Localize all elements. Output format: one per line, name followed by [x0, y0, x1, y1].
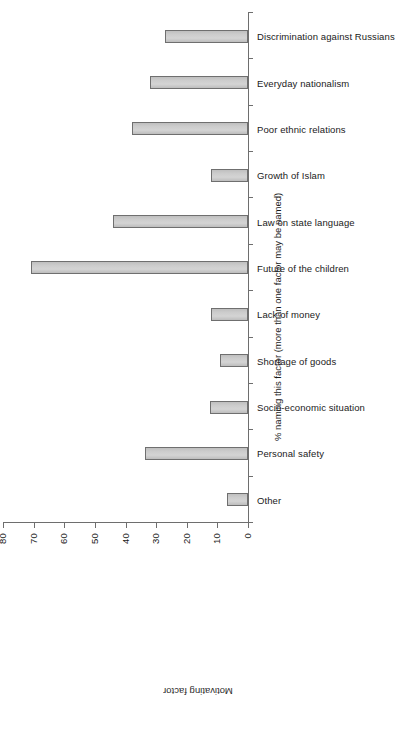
category-tick [248, 197, 253, 198]
category-label: Shortage of goods [257, 357, 336, 367]
category-tick [248, 151, 253, 152]
bar [113, 215, 248, 228]
value-tick [3, 522, 4, 528]
category-tick [248, 58, 253, 59]
bar [31, 262, 248, 275]
bar [211, 169, 248, 182]
category-label: Discrimination against Russians [257, 32, 395, 42]
value-tick [126, 522, 127, 528]
category-tick [248, 522, 253, 523]
value-tick [217, 522, 218, 528]
category-label: Future of the children [257, 264, 349, 274]
value-tick [64, 522, 65, 528]
bar [220, 354, 248, 367]
category-label: Growth of Islam [257, 171, 325, 181]
value-axis-title: % naming this factor (more than one fact… [273, 193, 283, 441]
value-tick-label: 0 [243, 533, 253, 565]
value-tick [34, 522, 35, 528]
value-tick-label: 20 [182, 533, 192, 565]
value-tick-label: 30 [151, 533, 161, 565]
bar [165, 30, 248, 43]
value-tick-label: 40 [121, 533, 131, 565]
bar [211, 308, 248, 321]
plot-area: 01020304050607080 OtherPersonal safetySo… [0, 1, 295, 561]
category-axis-title: Motivating factor [138, 686, 258, 697]
category-tick [248, 337, 253, 338]
category-label: Lack of money [257, 310, 320, 320]
value-tick [156, 522, 157, 528]
category-axis-line [248, 13, 249, 523]
value-tick-label: 80 [0, 533, 8, 565]
category-tick [248, 290, 253, 291]
value-tick [187, 522, 188, 528]
bar [145, 447, 248, 460]
bar [132, 122, 248, 135]
value-tick-label: 50 [90, 533, 100, 565]
category-label: Poor ethnic relations [257, 125, 346, 135]
value-tick-label: 10 [212, 533, 222, 565]
rotated-plot-container: 01020304050607080 OtherPersonal safetySo… [0, 1, 295, 561]
category-tick [248, 105, 253, 106]
bar [150, 76, 248, 89]
category-tick [248, 429, 253, 430]
bar [227, 493, 248, 506]
value-tick-label: 60 [59, 533, 69, 565]
value-tick [95, 522, 96, 528]
category-tick [248, 476, 253, 477]
category-tick [248, 12, 253, 13]
category-label: Everyday nationalism [257, 79, 349, 89]
category-label: Other [257, 496, 281, 506]
bar [210, 401, 248, 414]
value-tick-label: 70 [29, 533, 39, 565]
category-label: Personal safety [257, 449, 324, 459]
category-tick [248, 244, 253, 245]
category-tick [248, 383, 253, 384]
